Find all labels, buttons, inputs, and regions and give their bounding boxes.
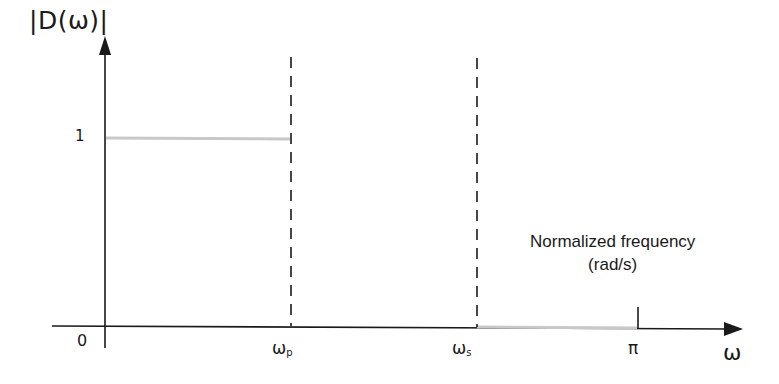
x-axis-arrow-icon xyxy=(724,322,743,336)
y-axis-label: |D(ω)| xyxy=(29,6,109,35)
normalized-frequency-annotation: Normalized frequency (rad/s) xyxy=(530,230,695,276)
omega-p-symbol: ω xyxy=(272,338,286,358)
y-axis-arrow-icon xyxy=(99,36,111,55)
y-tick-one: 1 xyxy=(75,127,85,145)
origin-label: 0 xyxy=(77,331,87,350)
x-axis-label: ω xyxy=(723,340,741,365)
omega-p-tick-label: ωp xyxy=(272,338,293,358)
annotation-line-2: (rad/s) xyxy=(530,253,695,276)
filter-diagram xyxy=(0,0,779,384)
omega-s-symbol: ω xyxy=(452,338,466,358)
pi-tick-label: π xyxy=(628,338,638,358)
passband-line xyxy=(106,138,290,139)
omega-s-subscript: s xyxy=(466,347,471,358)
annotation-line-1: Normalized frequency xyxy=(530,230,695,253)
stopband-line xyxy=(477,327,637,328)
omega-s-tick-label: ωs xyxy=(452,338,471,358)
omega-p-subscript: p xyxy=(286,347,292,358)
